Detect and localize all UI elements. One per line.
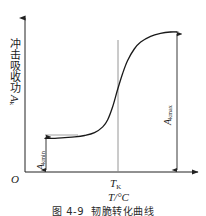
akmax-label: Akmax xyxy=(163,105,174,125)
y-axis-label: 冲击吸收功Ak xyxy=(5,38,20,106)
akmin-label: Akmin xyxy=(36,151,47,170)
y-axis-label-chinese: 冲击吸收功 xyxy=(8,38,21,93)
plot-canvas xyxy=(0,0,206,216)
transition-temperature-label: TK xyxy=(110,178,121,190)
y-axis-label-symbol: Ak xyxy=(8,95,20,105)
figure-caption-number: 图 4-9 xyxy=(52,206,84,216)
origin-label: O xyxy=(11,174,19,185)
transition-curve xyxy=(45,32,177,139)
figure-ductile-brittle-transition-curve: 冲击吸收功Ak O TK T/°C Akmin Akmax 图 4-9韧脆转化曲… xyxy=(0,0,206,216)
figure-caption: 图 4-9韧脆转化曲线 xyxy=(0,203,206,216)
x-axis-label: T/°C xyxy=(108,192,129,203)
figure-caption-title: 韧脆转化曲线 xyxy=(91,206,154,216)
